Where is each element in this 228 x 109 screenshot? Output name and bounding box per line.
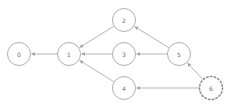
arrowhead-6-to-4: [137, 86, 140, 90]
node-label-5: 5: [177, 51, 181, 58]
graph-node-3[interactable]: 3: [113, 43, 136, 66]
edge-4-to-1: [80, 61, 114, 82]
node-label-1: 1: [67, 51, 71, 58]
edge-2-to-1: [80, 26, 114, 47]
graph-node-6[interactable]: 6: [200, 77, 223, 100]
node-label-0: 0: [17, 51, 21, 58]
graph-svg: 0123456: [0, 0, 228, 109]
edge-5-to-2: [135, 27, 169, 48]
arrowhead-5-to-3: [137, 52, 140, 56]
edge-5-to-3: [137, 52, 168, 56]
edge-6-to-5: [188, 63, 203, 79]
edge-6-to-4: [137, 86, 200, 90]
graph-node-2[interactable]: 2: [113, 9, 136, 32]
graph-node-4[interactable]: 4: [113, 77, 136, 100]
arrowhead-3-to-1: [82, 52, 85, 56]
node-label-3: 3: [122, 51, 126, 58]
graph-node-5[interactable]: 5: [168, 43, 191, 66]
graph-node-0[interactable]: 0: [8, 43, 31, 66]
node-label-4: 4: [122, 85, 126, 92]
edge-3-to-1: [82, 52, 113, 56]
graph-canvas: 0123456: [0, 0, 228, 109]
node-label-6: 6: [209, 85, 213, 92]
graph-node-1[interactable]: 1: [58, 43, 81, 66]
edge-1-to-0: [32, 52, 58, 56]
arrowhead-1-to-0: [32, 52, 35, 56]
node-label-2: 2: [122, 17, 126, 24]
